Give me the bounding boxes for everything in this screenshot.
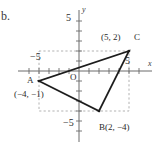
- y-axis-label: y: [82, 6, 86, 14]
- triangle-abc: [39, 51, 129, 111]
- vertex-b-marker: [98, 110, 101, 113]
- y-tick-label-5: 5: [66, 13, 71, 23]
- vertex-a-marker: [38, 80, 41, 83]
- x-tick-label-neg5: −5: [30, 52, 41, 62]
- point-a-coordinate-label: (−4, −1): [14, 90, 44, 99]
- x-tick-label-5: 5: [125, 56, 130, 66]
- point-b-label: B(2, −4): [99, 123, 130, 132]
- figure-canvas: b. y x 5 −5 −5 5 O (5, 2) C A (−4, −1) B…: [0, 0, 158, 146]
- origin-label: O: [70, 73, 77, 82]
- vertex-c-marker: [128, 50, 131, 53]
- x-axis-label: x: [148, 60, 152, 68]
- coordinate-plane-graphic: [0, 0, 158, 146]
- point-c-coordinate-label: (5, 2): [101, 33, 121, 42]
- point-c-name-label: C: [134, 33, 140, 42]
- y-tick-label-neg5: −5: [63, 118, 74, 128]
- item-number: b.: [1, 10, 10, 22]
- dashed-bounding-box: [39, 51, 129, 111]
- point-a-name-label: A: [27, 76, 34, 85]
